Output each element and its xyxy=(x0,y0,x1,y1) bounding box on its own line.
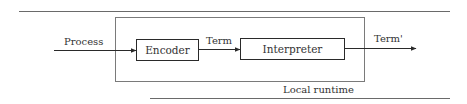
flow-arrows xyxy=(0,0,467,104)
term-prime-label: Term' xyxy=(374,34,403,44)
interpreter-block: Interpreter xyxy=(240,38,345,60)
encoder-label: Encoder xyxy=(145,44,190,56)
term-label: Term xyxy=(206,36,232,46)
encoder-block: Encoder xyxy=(136,39,199,61)
local-runtime-label: Local runtime xyxy=(283,85,354,95)
bottom-rule xyxy=(150,98,450,99)
interpreter-label: Interpreter xyxy=(263,43,323,55)
process-label: Process xyxy=(64,37,103,47)
